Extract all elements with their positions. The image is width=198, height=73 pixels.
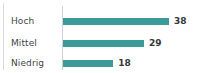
bar-value-hoch: 38 (174, 16, 187, 26)
bar-value-niedrig: 18 (118, 58, 131, 68)
bar-mittel (63, 40, 144, 47)
bar-track: 29 (63, 32, 196, 54)
bar-track: 38 (63, 10, 196, 32)
bar-value-mittel: 29 (149, 38, 162, 48)
bar-niedrig (63, 60, 113, 67)
bar-row: Niedrig 18 (0, 52, 198, 73)
plot-area: Hoch 38 Mittel 29 Niedrig 18 (0, 0, 198, 73)
bar-row: Mittel 29 (0, 32, 198, 54)
bar-row: Hoch 38 (0, 10, 198, 32)
category-label-niedrig: Niedrig (11, 58, 59, 68)
bar-track: 18 (63, 52, 196, 73)
category-label-mittel: Mittel (11, 38, 59, 48)
horizontal-bar-chart: Hoch 38 Mittel 29 Niedrig 18 (0, 0, 198, 73)
bar-hoch (63, 18, 169, 25)
category-label-hoch: Hoch (11, 16, 59, 26)
